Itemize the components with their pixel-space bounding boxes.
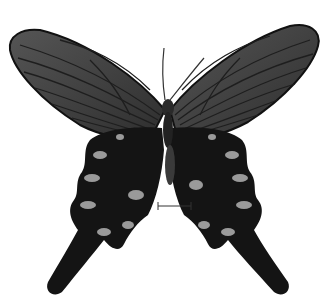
- butterfly-illustration: [0, 0, 329, 306]
- left-forewing: [10, 30, 165, 140]
- right-forewing: [170, 25, 319, 140]
- left-hindwing: [47, 127, 164, 294]
- right-hindwing: [168, 127, 289, 294]
- butterfly-image: [0, 0, 329, 306]
